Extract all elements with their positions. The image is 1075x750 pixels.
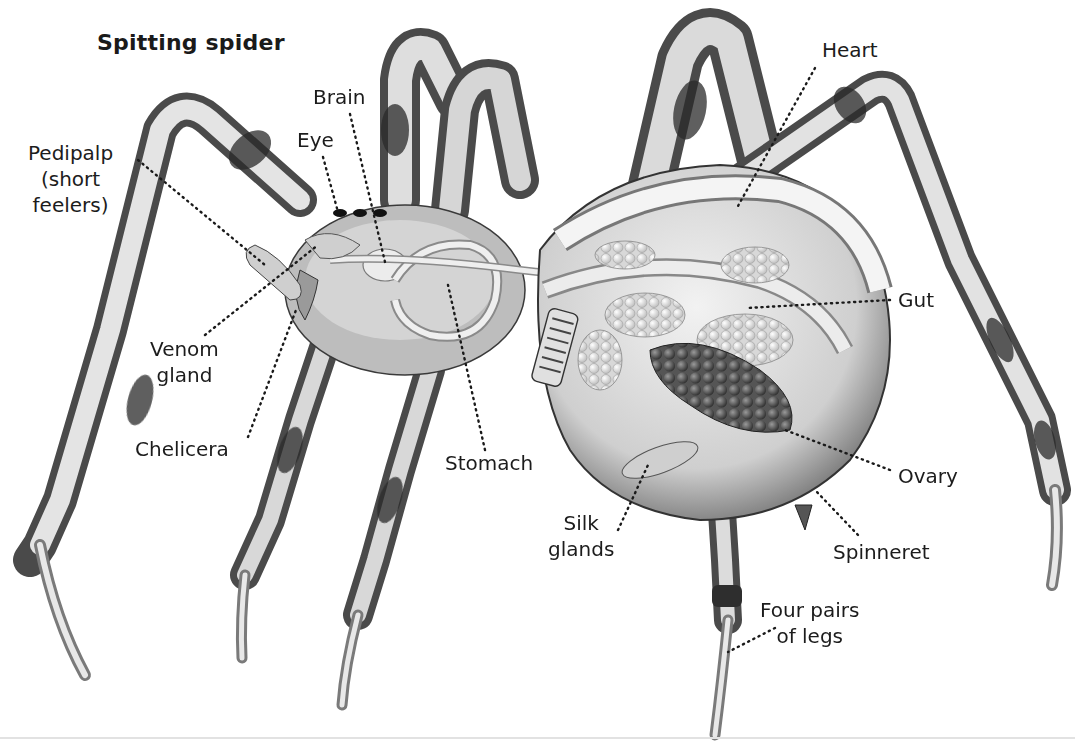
label-pedipalp-line-2: (short <box>28 166 113 192</box>
label-legs-line-1: Four pairs <box>760 597 859 623</box>
label-legs: Four pairs of legs <box>760 597 859 649</box>
label-venom-gland-line-1: Venom <box>150 336 219 362</box>
label-legs-line-2: of legs <box>760 623 859 649</box>
abdomen <box>531 165 890 530</box>
eyes <box>333 209 387 217</box>
spider-anatomy-diagram: Spitting spider Pedipalp (short feelers)… <box>0 0 1075 750</box>
label-spinneret: Spinneret <box>833 539 930 565</box>
label-chelicera: Chelicera <box>135 436 229 462</box>
label-gut: Gut <box>898 287 934 313</box>
leader-eye <box>323 157 338 212</box>
label-silk-glands: Silk glands <box>548 510 614 562</box>
label-pedipalp: Pedipalp (short feelers) <box>28 140 113 218</box>
label-venom-gland: Venom gland <box>150 336 219 388</box>
bottom-divider <box>0 737 1075 739</box>
label-heart: Heart <box>822 37 878 63</box>
label-stomach: Stomach <box>445 450 533 476</box>
label-pedipalp-line-1: Pedipalp <box>28 140 113 166</box>
label-eye: Eye <box>297 127 334 153</box>
label-brain: Brain <box>313 84 365 110</box>
leader-pedipalp <box>138 160 265 265</box>
label-venom-gland-line-2: gland <box>150 362 219 388</box>
label-silk-glands-line-1: Silk <box>548 510 614 536</box>
label-pedipalp-line-3: feelers) <box>28 192 113 218</box>
label-silk-glands-line-2: glands <box>548 536 614 562</box>
leader-spinneret <box>815 490 858 535</box>
diagram-title: Spitting spider <box>97 30 285 55</box>
label-ovary: Ovary <box>898 463 958 489</box>
